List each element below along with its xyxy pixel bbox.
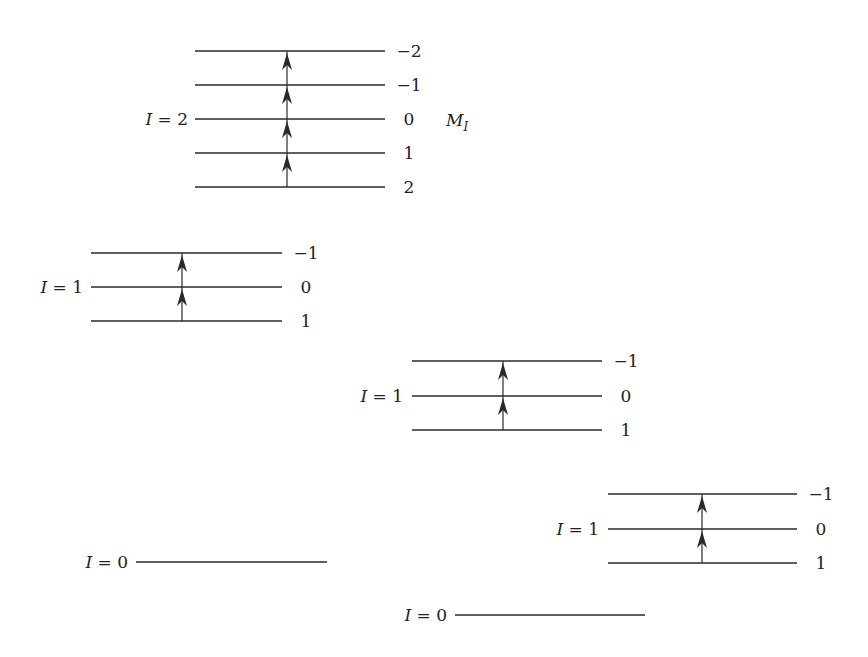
mi-value-label: −1 xyxy=(808,484,833,504)
mi-value-label: 0 xyxy=(301,277,312,297)
mi-axis-label: MI xyxy=(445,110,468,134)
level-group-g5: I = 0 xyxy=(84,552,327,572)
level-group-g1: I = 2−2−1012 xyxy=(144,41,421,197)
spin-label: I = 1 xyxy=(39,277,83,297)
spin-label: I = 0 xyxy=(84,552,128,572)
mi-value-label: −1 xyxy=(396,75,421,95)
mi-value-label: −1 xyxy=(613,351,638,371)
level-group-g6: I = 0 xyxy=(403,605,645,625)
energy-level-diagram: I = 2−2−1012I = 1−101I = 1−101I = 1−101I… xyxy=(0,0,868,657)
mi-value-label: 0 xyxy=(621,386,632,406)
mi-value-label: 1 xyxy=(816,553,827,573)
spin-label: I = 0 xyxy=(403,605,447,625)
mi-value-label: −2 xyxy=(396,41,421,61)
mi-value-label: 2 xyxy=(404,177,415,197)
mi-value-label: 1 xyxy=(621,420,632,440)
spin-label: I = 1 xyxy=(555,519,599,539)
mi-value-label: 0 xyxy=(816,519,827,539)
mi-value-label: −1 xyxy=(293,243,318,263)
level-group-g3: I = 1−101 xyxy=(359,351,638,440)
level-group-g4: I = 1−101 xyxy=(555,484,833,573)
mi-value-label: 1 xyxy=(404,143,415,163)
spin-label: I = 1 xyxy=(359,386,403,406)
spin-label: I = 2 xyxy=(144,109,188,129)
mi-value-label: 1 xyxy=(301,311,312,331)
level-group-g2: I = 1−101 xyxy=(39,243,318,331)
mi-value-label: 0 xyxy=(404,109,415,129)
